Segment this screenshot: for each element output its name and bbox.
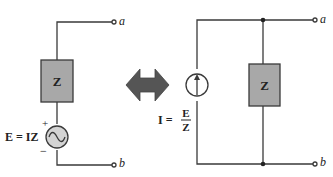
right-outer-bottom-wire [197,101,313,164]
terminal-b-label-right: b [320,155,326,169]
terminal-b-label: b [119,156,125,170]
current-equation-lhs: I = [158,113,173,127]
terminal-a-node-right[interactable] [313,18,317,22]
terminal-a-node[interactable] [112,20,116,24]
terminal-a-label: a [119,14,125,28]
left-impedance-label: Z [53,74,62,89]
left-bottom-wire [57,150,112,165]
current-equation-numerator: E [182,107,189,119]
left-top-wire [57,22,112,60]
double-arrow-icon [126,69,169,101]
source-plus-sign: + [42,117,48,129]
junction-dot-bottom [261,162,266,167]
right-outer-wire [197,20,313,69]
source-minus-sign: − [40,144,47,158]
junction-dot-top [261,18,266,23]
right-impedance-label: Z [260,78,269,93]
terminal-a-label-right: a [320,12,326,26]
terminal-b-node-right[interactable] [313,162,317,166]
circuit-diagram: Z + − E = IZ a b Z I = E Z a b [0,0,333,177]
source-equation: E = IZ [5,130,39,144]
current-equation-denominator: Z [182,121,189,133]
terminal-b-node[interactable] [112,163,116,167]
